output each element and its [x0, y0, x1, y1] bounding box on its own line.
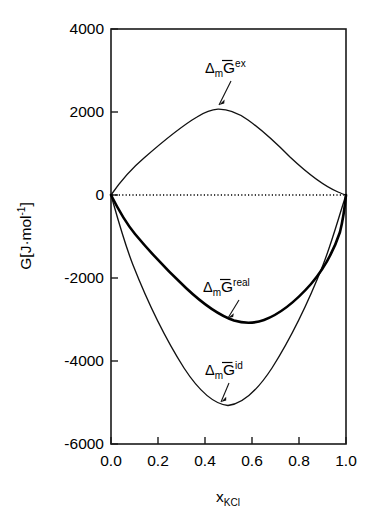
y-tick-label-4000: 4000	[70, 20, 105, 37]
x-axis-ticks	[111, 437, 346, 444]
annotation-excess-gbar: G	[223, 59, 235, 76]
x-axis-title: xKCl	[216, 488, 240, 508]
y-tick-label-2000: 2000	[70, 103, 105, 120]
annotation-ideal-delta: Δ	[205, 362, 215, 378]
y-axis-title-main: G[J·mol	[17, 215, 34, 269]
y-tick-label-neg4000: -4000	[64, 352, 104, 369]
x-tick-label-08: 0.8	[288, 452, 310, 469]
figure-container: 4000 2000 0 -2000 -4000 -6000 0.0 0.2 0.…	[0, 0, 374, 526]
curve-real-gibbs	[111, 195, 346, 323]
annotation-excess-label: ΔmGex	[205, 58, 246, 79]
annotation-excess-arrow-line	[219, 81, 231, 105]
annotation-excess: ΔmGex	[205, 58, 246, 105]
svg-text:G[J·mol-1]: G[J·mol-1]	[16, 202, 34, 269]
annotation-real-gbar: G	[221, 278, 233, 295]
x-tick-label-04: 0.4	[194, 452, 216, 469]
annotation-real-label: ΔmGreal	[203, 277, 250, 298]
x-tick-label-0: 0.0	[100, 452, 122, 469]
x-axis-title-subscript: KCl	[224, 497, 240, 508]
annotation-ideal-label: ΔmGid	[205, 360, 243, 381]
y-axis-title: G[J·mol-1]	[16, 202, 34, 269]
y-tick-label-neg6000: -6000	[64, 435, 104, 452]
y-tick-label-0: 0	[95, 186, 104, 203]
annotation-excess-delta: Δ	[205, 60, 215, 76]
annotation-ideal-gbar: G	[223, 361, 235, 378]
annotation-real: ΔmGreal	[203, 277, 250, 318]
chart-svg: 4000 2000 0 -2000 -4000 -6000 0.0 0.2 0.…	[0, 0, 374, 526]
annotation-real-sub: m	[213, 287, 221, 298]
plot-frame	[111, 29, 346, 444]
curve-excess-gibbs	[111, 109, 346, 195]
y-tick-label-neg2000: -2000	[64, 269, 104, 286]
x-tick-label-06: 0.6	[241, 452, 263, 469]
annotation-excess-sub: m	[215, 68, 223, 79]
annotation-real-arrow-line	[228, 300, 239, 318]
y-axis-title-tail: ]	[17, 202, 34, 206]
x-tick-label-10: 1.0	[335, 452, 357, 469]
x-tick-label-02: 0.2	[147, 452, 169, 469]
annotation-real-sup: real	[233, 277, 250, 288]
annotation-excess-sup: ex	[235, 58, 246, 69]
annotation-ideal-sup: id	[235, 360, 243, 371]
y-axis-ticks	[111, 29, 118, 444]
annotation-ideal-sub: m	[215, 370, 223, 381]
annotation-real-delta: Δ	[203, 279, 213, 295]
annotation-ideal: ΔmGid	[205, 360, 243, 402]
